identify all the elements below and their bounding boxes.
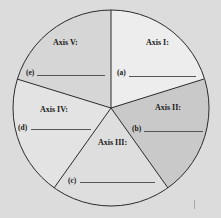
axis-pie-diagram <box>0 0 221 218</box>
axis-1-blank-label: (a) <box>117 69 126 77</box>
axis-2-answer-blank[interactable] <box>144 131 203 132</box>
axis-3-answer-blank[interactable] <box>80 182 155 183</box>
axis-5-blank-label: (e) <box>26 69 34 77</box>
axis-1-answer-blank[interactable] <box>129 76 196 77</box>
axis-4-title: Axis IV: <box>40 106 68 114</box>
axis-5-answer-blank[interactable] <box>37 75 105 76</box>
axis-4-blank-label: (d) <box>18 124 27 132</box>
axis-2-title: Axis II: <box>155 104 181 112</box>
axis-5-title: Axis V: <box>53 39 78 47</box>
axis-4-answer-blank[interactable] <box>31 129 91 130</box>
axis-3-title: Axis III: <box>98 139 127 147</box>
axis-3-blank-label: (c) <box>68 177 76 185</box>
axis-1-title: Axis I: <box>146 39 169 47</box>
scan-artifact <box>194 200 195 209</box>
axis-2-blank-label: (b) <box>132 125 141 133</box>
